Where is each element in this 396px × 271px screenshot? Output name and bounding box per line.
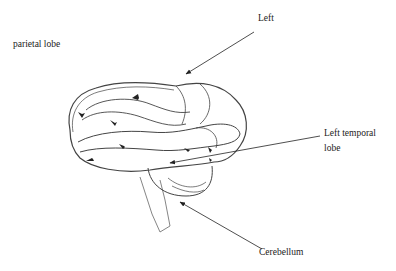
pointer-lines	[170, 32, 320, 249]
cerebrum	[69, 83, 246, 172]
left-pointer	[186, 32, 254, 74]
temporal-pointer	[170, 136, 320, 163]
cerebellum-shape	[148, 166, 212, 196]
cerebellum-pointer	[180, 202, 262, 249]
brain-stem	[140, 177, 170, 232]
label-parietal-lobe: parietal lobe	[13, 38, 60, 50]
label-left-temporal-line1: Left temporal	[324, 127, 376, 139]
label-left: Left	[258, 12, 274, 24]
label-left-temporal-line2: lobe	[324, 142, 340, 154]
sulci-marks	[78, 94, 212, 162]
label-cerebellum: Cerebellum	[259, 246, 303, 258]
